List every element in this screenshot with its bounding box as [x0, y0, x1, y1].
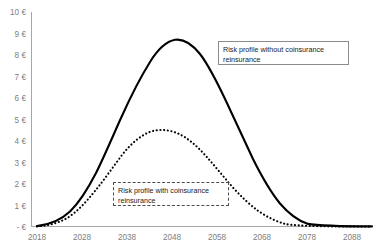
annotation-without-coinsurance: Risk profile without coinsurance reinsur…	[218, 41, 349, 65]
y-tick-label: 9 €	[15, 30, 27, 39]
series-line-with-coinsurance	[37, 130, 372, 227]
risk-profile-chart: 10 € 9 € 8 € 7 € 6 € 5 € 4 € 3 € 2 € 1 €…	[0, 0, 386, 249]
y-tick-label: - €	[16, 223, 26, 232]
y-tick-label: 6 €	[15, 94, 27, 103]
y-tick-label: 2 €	[15, 180, 27, 189]
y-tick-label: 5 €	[15, 116, 27, 125]
y-tick-label: 7 €	[15, 73, 27, 82]
y-tick-label: 1 €	[15, 202, 27, 211]
y-tick-label: 10 €	[10, 8, 26, 17]
y-tick-label: 4 €	[15, 137, 27, 146]
y-tick-label: 8 €	[15, 51, 27, 60]
chart-plot-area: 10 € 9 € 8 € 7 € 6 € 5 € 4 € 3 € 2 € 1 €…	[0, 0, 386, 249]
x-axis-tick-labels: 2018 2028 2038 2048 2058 2068 2078 2088	[28, 233, 362, 242]
x-tick-label: 2028	[73, 233, 92, 242]
x-tick-label: 2038	[118, 233, 137, 242]
x-tick-label: 2088	[343, 233, 362, 242]
y-axis-tick-labels: 10 € 9 € 8 € 7 € 6 € 5 € 4 € 3 € 2 € 1 €…	[10, 8, 26, 232]
annotation-with-coinsurance: Risk profile with coinsurance reinsuranc…	[113, 182, 229, 206]
y-tick-label: 3 €	[15, 159, 27, 168]
x-tick-label: 2078	[298, 233, 317, 242]
x-tick-label: 2048	[163, 233, 182, 242]
x-tick-label: 2018	[28, 233, 47, 242]
x-tick-label: 2068	[253, 233, 272, 242]
x-tick-label: 2058	[208, 233, 227, 242]
